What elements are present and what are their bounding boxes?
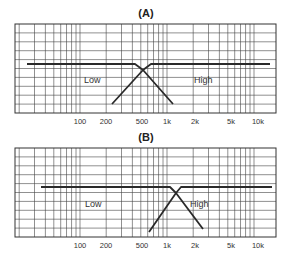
tick-label: 200 [100, 117, 113, 126]
chart-b-title: (B) [138, 131, 154, 143]
chart-a-high-curve [112, 64, 270, 104]
tick-label: 500 [136, 117, 149, 126]
tick-label: 10k [252, 117, 264, 126]
chart-a-high-label: High [194, 75, 213, 85]
tick-label: 1k [163, 117, 171, 126]
chart-b-x-ticks: 100 200 500 1k 2k 5k 10k [74, 241, 265, 250]
chart-a-low-label: Low [84, 75, 101, 85]
chart-b-low-label: Low [85, 199, 102, 209]
tick-label: 2k [191, 117, 199, 126]
tick-label: 200 [100, 241, 113, 250]
tick-label: 5k [227, 241, 235, 250]
crossover-diagram: (A) Low High 100 200 500 1k 2k 5k 10k (B… [0, 0, 289, 268]
chart-a: (A) Low High 100 200 500 1k 2k 5k 10k [15, 7, 276, 126]
tick-label: 10k [252, 241, 264, 250]
tick-label: 2k [191, 241, 199, 250]
tick-label: 1k [163, 241, 171, 250]
tick-label: 100 [74, 117, 87, 126]
tick-label: 500 [136, 241, 149, 250]
chart-b-low-curve [41, 187, 203, 229]
chart-a-title: (A) [138, 7, 154, 19]
chart-b-high-label: High [190, 199, 209, 209]
chart-b-grid [15, 148, 276, 237]
chart-b: (B) Low High 100 200 500 1k 2k 5k 10k [15, 131, 276, 250]
chart-a-x-ticks: 100 200 500 1k 2k 5k 10k [74, 117, 265, 126]
chart-b-high-curve [149, 187, 272, 232]
tick-label: 100 [74, 241, 87, 250]
tick-label: 5k [227, 117, 235, 126]
